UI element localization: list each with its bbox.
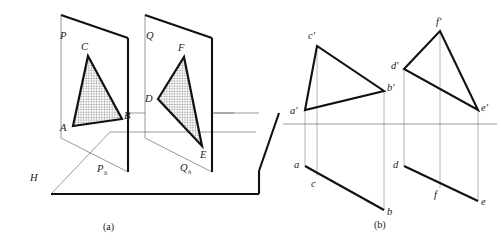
figure-root: H P P h C B A <box>0 0 501 245</box>
top-view-abc: a c b <box>294 159 392 217</box>
top-vertex-a-label: a <box>294 159 299 170</box>
descriptive-geometry-figure: H P P h C B A <box>0 0 501 245</box>
top-view-def-line <box>404 166 478 201</box>
panel-b-projection: c′ b′ a′ f′ d′ e′ a c b d f <box>283 16 497 231</box>
triangle-ABC: C B A <box>59 41 131 133</box>
vertex-E-label: E <box>199 149 207 160</box>
plane-P-trace-label: P <box>96 163 104 174</box>
front-vertex-a-prime-label: a′ <box>290 105 298 116</box>
plane-P-top-edge <box>61 15 128 38</box>
front-vertex-b-prime-label: b′ <box>387 82 395 93</box>
plane-P-label: P <box>59 30 67 41</box>
front-vertex-d-prime-label: d′ <box>391 60 399 71</box>
caption-a: (a) <box>103 221 114 233</box>
plane-P-trace-subscript: h <box>104 169 107 176</box>
plane-H-right-front-edge <box>259 113 279 171</box>
top-vertex-c-label: c <box>311 178 316 189</box>
top-view-abc-line <box>305 166 384 210</box>
top-view-def: d f e <box>393 159 486 207</box>
top-vertex-e-label: e <box>481 196 486 207</box>
plane-Q-trace-subscript: h <box>188 168 191 175</box>
front-vertex-e-prime-label: e′ <box>481 102 489 113</box>
front-vertex-f-prime-label: f′ <box>436 16 442 27</box>
top-vertex-d-label: d <box>393 159 399 170</box>
front-view-abc: c′ b′ a′ <box>290 30 395 116</box>
plane-Q-trace-label: Q <box>180 162 188 173</box>
triangle-ABC-face <box>73 56 122 126</box>
vertex-F-label: F <box>177 42 185 53</box>
front-vertex-c-prime-label: c′ <box>308 30 316 41</box>
plane-H: H <box>29 113 279 194</box>
top-vertex-b-label: b <box>387 206 392 217</box>
plane-Q-top-edge <box>145 15 212 38</box>
plane-Q-label: Q <box>146 30 154 41</box>
front-view-def-outline <box>404 31 478 110</box>
caption-b: (b) <box>374 219 386 231</box>
vertex-D-label: D <box>144 93 153 104</box>
top-vertex-f-label: f <box>434 189 439 200</box>
plane-H-label: H <box>29 172 39 183</box>
plane-H-left-edge <box>51 132 256 194</box>
plane-P-bottom-trace <box>61 138 128 172</box>
triangle-DEF-face <box>158 57 202 146</box>
panel-a-pictorial: H P P h C B A <box>29 15 279 233</box>
vertex-B-label: B <box>124 110 131 121</box>
vertex-C-label: C <box>81 41 89 52</box>
vertex-A-label: A <box>59 122 67 133</box>
